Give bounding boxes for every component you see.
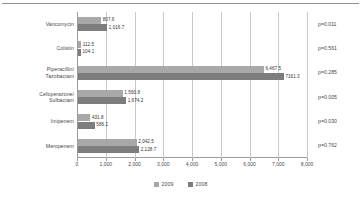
category-label: Meropenem bbox=[8, 143, 74, 149]
bar-2009-imipenem bbox=[78, 114, 90, 121]
x-axis-tick-label: 2,000 bbox=[128, 161, 141, 167]
bar-2008-colistin bbox=[78, 49, 81, 56]
category-label: Piperacillin/Tazobactam bbox=[8, 66, 74, 79]
bar-value-label: 586.1 bbox=[96, 122, 108, 128]
p-value-label: p=0.285 bbox=[318, 69, 337, 76]
bar-value-label: 1,016.7 bbox=[109, 25, 125, 31]
gridline bbox=[278, 12, 279, 158]
legend-swatch-icon bbox=[188, 182, 193, 187]
category-axis-labels: VancomycinColistinPiperacillin/Tazobacta… bbox=[8, 12, 74, 164]
bar-2008-cefoperazonesulbactam bbox=[78, 97, 126, 104]
p-value-label: p=0.762 bbox=[318, 142, 337, 149]
x-axis-tick-label: 7,000 bbox=[272, 161, 285, 167]
top-divider bbox=[2, 3, 359, 4]
x-axis-tick-label: 5,000 bbox=[214, 161, 227, 167]
p-value-label: p=0.005 bbox=[318, 94, 337, 101]
category-label: Imipenem bbox=[8, 118, 74, 124]
bar-2009-vancomycin bbox=[78, 17, 101, 24]
bar-value-label: 1,674.2 bbox=[128, 98, 144, 104]
x-axis-tick-label: 3,000 bbox=[157, 161, 170, 167]
bar-value-label: 1,560.8 bbox=[124, 90, 140, 96]
bar-2009-meropenem bbox=[78, 139, 137, 146]
gridline bbox=[163, 12, 164, 158]
legend-item-2009[interactable]: 2009 bbox=[154, 181, 174, 187]
bar-2009-piperacillintazobactam bbox=[78, 66, 264, 73]
x-axis-tick-label: 4,000 bbox=[186, 161, 199, 167]
plot-area: 807.6112.56,467.51,560.8431.82,042.51,01… bbox=[77, 12, 307, 158]
bar-value-label: 6,467.5 bbox=[265, 66, 281, 72]
bar-2008-vancomycin bbox=[78, 24, 107, 31]
legend-swatch-icon bbox=[154, 182, 159, 187]
bar-2008-piperacillintazobactam bbox=[78, 73, 284, 80]
bar-value-label: 807.6 bbox=[103, 17, 115, 23]
legend-label: 2008 bbox=[196, 181, 208, 187]
bar-2009-colistin bbox=[78, 41, 81, 48]
gridline bbox=[192, 12, 193, 158]
p-value-label: p=0.030 bbox=[318, 118, 337, 125]
gridline bbox=[135, 12, 136, 158]
gridline bbox=[250, 12, 251, 158]
bar-value-label: 7161.3 bbox=[285, 74, 299, 80]
category-label: Cefoperazone/Sulbactam bbox=[8, 91, 74, 104]
x-axis-tick-label: 1,000 bbox=[99, 161, 112, 167]
bar-value-label: 2,042.5 bbox=[138, 139, 154, 145]
p-value-label: p=0.561 bbox=[318, 45, 337, 52]
legend-label: 2009 bbox=[162, 181, 174, 187]
x-axis-tick-labels: 01,0002,0003,0004,0005,0006,0007,0008,00… bbox=[77, 161, 307, 171]
gridline bbox=[106, 12, 107, 158]
bar-value-label: 431.8 bbox=[92, 115, 104, 121]
gridline bbox=[221, 12, 222, 158]
x-axis-tick-label: 8,000 bbox=[301, 161, 314, 167]
category-label: Colistin bbox=[8, 45, 74, 51]
gridline bbox=[307, 12, 308, 158]
bar-value-label: 104.1 bbox=[82, 49, 94, 55]
bar-2008-meropenem bbox=[78, 146, 139, 153]
bar-value-label: 2,128.7 bbox=[141, 147, 157, 153]
legend-item-2008[interactable]: 2008 bbox=[188, 181, 208, 187]
p-value-label: p=0.011 bbox=[318, 21, 337, 28]
bar-2009-cefoperazonesulbactam bbox=[78, 90, 123, 97]
chart-figure: VancomycinColistinPiperacillin/Tazobacta… bbox=[0, 0, 361, 199]
bar-2008-imipenem bbox=[78, 122, 95, 129]
x-axis-tick-label: 6,000 bbox=[243, 161, 256, 167]
bar-chart: VancomycinColistinPiperacillin/Tazobacta… bbox=[0, 12, 361, 164]
bar-value-label: 112.5 bbox=[83, 42, 94, 48]
x-axis-tick-label: 0 bbox=[76, 161, 79, 167]
category-label: Vancomycin bbox=[8, 21, 74, 27]
p-value-annotations: p=0.011p=0.561p=0.285p=0.005p=0.030p=0.7… bbox=[318, 12, 361, 158]
y-axis-line bbox=[77, 12, 78, 158]
chart-legend: 20092008 bbox=[0, 178, 361, 190]
